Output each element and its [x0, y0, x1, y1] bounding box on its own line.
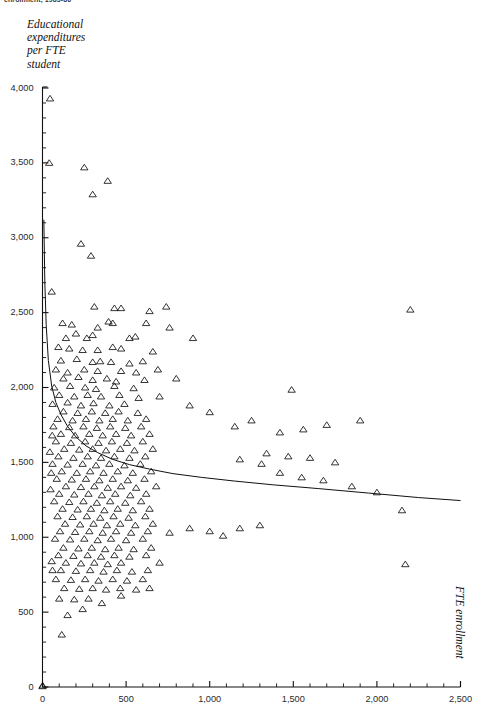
data-point-marker [81, 536, 88, 542]
data-point-marker [94, 368, 101, 374]
data-point-marker [52, 438, 59, 444]
data-point-marker [142, 491, 149, 497]
data-point-marker [68, 321, 75, 327]
data-point-marker [123, 440, 130, 446]
data-point-marker [54, 416, 61, 422]
data-point-marker [81, 576, 88, 582]
data-point-marker [75, 545, 82, 551]
data-point-marker [109, 576, 116, 582]
data-point-marker [109, 344, 116, 350]
data-point-marker [149, 348, 156, 354]
data-point-marker [206, 528, 213, 534]
fitted-regression-curve [44, 220, 461, 501]
data-point-marker [109, 476, 116, 482]
data-point-marker [66, 536, 73, 542]
data-point-marker [58, 468, 65, 474]
data-point-marker [53, 476, 60, 482]
data-point-marker [64, 369, 71, 375]
data-point-marker [320, 477, 327, 483]
scatter-plot-canvas [0, 0, 485, 706]
data-point-marker [102, 447, 109, 453]
data-point-marker [173, 375, 180, 381]
data-point-marker [130, 546, 137, 552]
data-point-marker [117, 585, 124, 591]
data-point-marker [89, 191, 96, 197]
axis-lines-layer [43, 87, 461, 687]
y-tick-label: 4,000 [0, 83, 34, 93]
data-point-marker [94, 537, 101, 543]
data-point-marker [79, 461, 86, 467]
data-point-marker [117, 446, 124, 452]
data-point-marker [104, 178, 111, 184]
data-point-marker [67, 440, 74, 446]
data-point-marker [117, 368, 124, 374]
data-point-marker [103, 522, 110, 528]
data-point-marker [101, 507, 108, 513]
data-point-marker [132, 333, 139, 339]
data-point-marker [276, 470, 283, 476]
x-tick-label: 0 [23, 694, 63, 704]
data-point-marker [80, 423, 87, 429]
data-point-marker [139, 576, 146, 582]
data-point-marker [54, 513, 61, 519]
y-tick-label: 1,500 [0, 457, 34, 467]
data-point-marker [407, 307, 414, 313]
data-point-marker [89, 377, 96, 383]
data-point-marker [55, 344, 62, 350]
data-point-marker [92, 386, 99, 392]
data-point-marker [61, 521, 68, 527]
data-point-marker [64, 612, 71, 618]
data-point-marker [115, 545, 122, 551]
data-point-marker [132, 369, 139, 375]
data-point-marker [117, 521, 124, 527]
data-point-marker [112, 528, 119, 534]
data-point-marker [100, 470, 107, 476]
data-point-marker [51, 536, 58, 542]
data-point-marker [93, 425, 100, 431]
data-point-marker [57, 431, 64, 437]
data-point-marker [111, 305, 118, 311]
data-point-marker [100, 569, 107, 575]
data-point-marker [402, 561, 409, 567]
x-tick-label: 500 [106, 694, 146, 704]
data-point-marker [323, 422, 330, 428]
data-point-marker [48, 470, 55, 476]
data-point-marker [89, 332, 96, 338]
data-point-marker [129, 507, 136, 513]
data-point-marker [80, 498, 87, 504]
data-point-marker [122, 425, 129, 431]
data-point-marker [81, 164, 88, 170]
data-point-marker [206, 409, 213, 415]
data-point-marker [86, 468, 93, 474]
data-point-marker [132, 587, 139, 593]
data-point-marker [46, 95, 53, 101]
data-point-marker [87, 506, 94, 512]
data-point-marker [95, 578, 102, 584]
data-point-marker [51, 498, 58, 504]
data-point-marker [55, 552, 62, 558]
data-point-marker [331, 459, 338, 465]
data-point-marker [71, 529, 78, 535]
data-point-marker [114, 468, 121, 474]
data-point-marker [163, 304, 170, 310]
data-point-marker [189, 335, 196, 341]
data-point-marker [88, 408, 95, 414]
data-point-marker [91, 483, 98, 489]
data-point-marker [81, 384, 88, 390]
data-point-marker [77, 560, 84, 566]
data-point-marker [84, 392, 91, 398]
data-point-marker [285, 453, 292, 459]
data-point-marker [127, 432, 134, 438]
data-point-marker [117, 483, 124, 489]
data-point-marker [96, 477, 103, 483]
data-point-marker [58, 631, 65, 637]
data-point-marker [103, 375, 110, 381]
y-tick-label: 1,000 [0, 532, 34, 542]
data-points-layer [39, 95, 414, 688]
data-point-marker [141, 377, 148, 383]
data-point-marker [76, 521, 83, 527]
data-point-marker [91, 560, 98, 566]
data-point-marker [89, 359, 96, 365]
data-point-marker [48, 289, 55, 295]
data-point-marker [76, 586, 83, 592]
